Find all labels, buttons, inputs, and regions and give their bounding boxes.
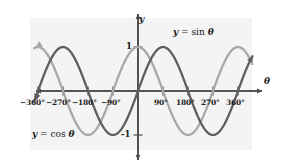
sin-label-eq: = sin (178, 27, 207, 37)
sin-label-arg: θ (208, 27, 214, 37)
x-tick-label-minus-360: −360° (20, 98, 45, 107)
x-tick-label-minus-90: −90° (101, 98, 121, 107)
y-value-label-positive-one: 1 (126, 41, 132, 51)
trig-graph-figure: y θ 1 -1 −360° −270° −180° −90° 90° 180°… (0, 0, 284, 167)
y-value-label-negative-one: -1 (121, 129, 130, 139)
x-tick-label-minus-270: −270° (46, 98, 71, 107)
x-tick-label-90: 90° (154, 98, 168, 107)
graph-canvas (0, 0, 284, 167)
x-tick-label-180: 180° (176, 98, 195, 107)
x-tick-label-270: 270° (201, 98, 220, 107)
sin-curve-label: y = sin θ (173, 27, 214, 37)
x-tick-label-360: 360° (226, 98, 245, 107)
x-axis-label: θ (264, 76, 270, 86)
curve-left-arrowheads (34, 41, 43, 102)
y-axis-label: y (139, 14, 144, 24)
cos-curve-label: y = cos θ (32, 129, 74, 139)
cos-label-arg: θ (68, 129, 74, 139)
x-tick-label-minus-180: −180° (72, 98, 97, 107)
cos-label-eq: = cos (37, 129, 68, 139)
